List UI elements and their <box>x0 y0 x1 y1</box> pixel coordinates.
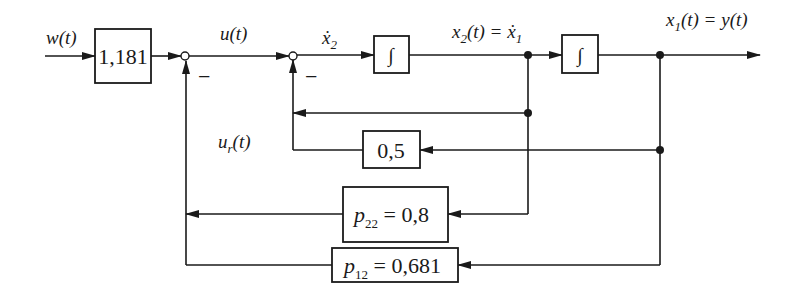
junction2-minus-sign: − <box>305 64 317 89</box>
p22-gain-text: p22 = 0,8 <box>352 202 429 231</box>
gain-0-5-value: 0,5 <box>377 138 405 163</box>
p12-gain-block: p12 = 0,681 <box>332 248 458 282</box>
input-signal-label: w(t) <box>46 27 77 49</box>
feedback-signal-label: ur(t) <box>218 131 251 156</box>
integrator-1-block: ∫ <box>374 36 409 73</box>
junction1-minus-sign: − <box>198 64 210 89</box>
summing-junction-2 <box>289 52 297 60</box>
prefilter-block: 1,181 <box>95 29 151 83</box>
output-signal-label: x1(t) = y(t) <box>665 9 748 34</box>
integrator-2-block: ∫ <box>562 35 598 73</box>
summing-junction-1 <box>181 52 189 60</box>
p22-gain-block: p22 = 0,8 <box>343 187 448 242</box>
block-diagram: w(t) 1,181 − u(t) − ẋ2 ∫ x2(t) = ẋ1 ∫ x1… <box>0 0 792 296</box>
gain-0-5-block: 0,5 <box>363 131 420 168</box>
control-signal-label: u(t) <box>220 23 247 45</box>
x2-dot-label: ẋ2 <box>321 27 337 52</box>
prefilter-gain: 1,181 <box>98 44 148 69</box>
x2-label: x2(t) = ẋ1 <box>451 21 522 46</box>
